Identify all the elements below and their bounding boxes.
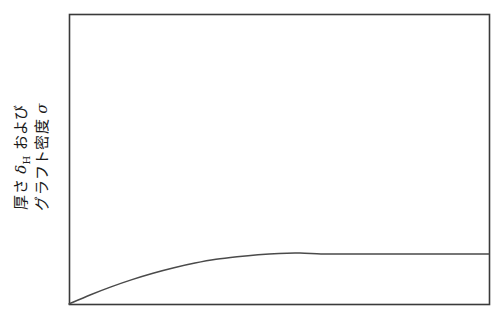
figure-canvas: 厚さ δH および グラフト密度 σ [0, 0, 499, 321]
plot-frame-rectangle [70, 15, 490, 305]
plot-area-svg [0, 0, 499, 321]
